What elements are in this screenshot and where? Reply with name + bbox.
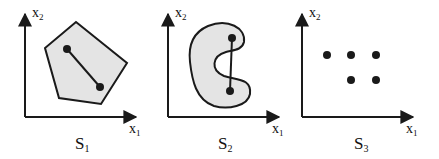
convex-pentagon [45, 22, 127, 104]
panel-s2: x2 x1 S2 [168, 5, 284, 154]
y-axis-label: x2 [175, 5, 187, 22]
point [347, 76, 355, 84]
x-axis-label: x1 [406, 121, 418, 138]
set-label: S1 [75, 134, 89, 154]
set-label: S3 [354, 134, 368, 154]
y-axis-label: x2 [309, 5, 321, 22]
y-axis-label: x2 [32, 5, 44, 22]
panel-s3: x2 x1 S3 [302, 5, 418, 154]
point [372, 76, 380, 84]
point [347, 51, 355, 59]
x-axis-label: x1 [129, 121, 141, 138]
point [372, 51, 380, 59]
set-label: S2 [218, 134, 232, 154]
point [63, 45, 71, 53]
convex-sets-diagram: x2 x1 S1 x2 x1 S2 x2 x1 S3 [0, 0, 439, 159]
c-shaped-region [190, 23, 251, 107]
point [96, 83, 104, 91]
panel-s1: x2 x1 S1 [25, 5, 141, 154]
point [226, 87, 234, 95]
point [323, 51, 331, 59]
point [228, 34, 236, 42]
x-axis-label: x1 [272, 121, 284, 138]
